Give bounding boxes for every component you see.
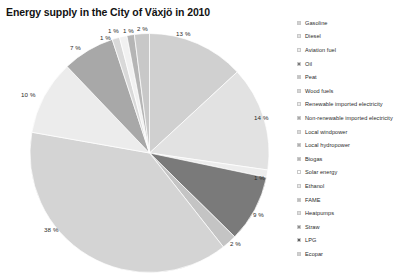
legend-swatch-icon bbox=[297, 198, 301, 202]
legend-item[interactable]: Gasoline bbox=[297, 16, 416, 30]
legend-item-label: Diesel bbox=[305, 33, 321, 39]
chart-page: Energy supply in the City of Växjö in 20… bbox=[0, 0, 416, 277]
legend-item[interactable]: Aviation fuel bbox=[297, 43, 416, 57]
legend-item-label: Gasoline bbox=[305, 20, 327, 26]
legend-swatch-icon bbox=[297, 238, 301, 242]
pie-percent-label: 14 % bbox=[254, 114, 269, 121]
pie-percent-label: 1 % bbox=[108, 27, 119, 34]
pie-percent-label: 9 % bbox=[253, 211, 264, 218]
legend-swatch-icon bbox=[297, 34, 301, 38]
pie-svg bbox=[27, 33, 272, 273]
legend-item[interactable]: Biogas bbox=[297, 152, 416, 166]
legend-swatch-icon bbox=[297, 21, 301, 25]
pie-percent-label: 10 % bbox=[21, 91, 36, 98]
legend-item-label: Oil bbox=[305, 61, 312, 67]
legend-item[interactable]: Solar energy bbox=[297, 166, 416, 180]
legend-item-label: Renewable imported electricity bbox=[305, 101, 383, 107]
legend-item-label: Solar energy bbox=[305, 169, 337, 175]
legend-item-label: Straw bbox=[305, 224, 320, 230]
pie-percent-label: 13 % bbox=[176, 30, 191, 37]
legend-swatch-icon bbox=[297, 89, 301, 93]
legend-swatch-icon bbox=[297, 116, 301, 120]
legend-item[interactable]: Renewable imported electricity bbox=[297, 98, 416, 112]
legend-item-label: Wood fuels bbox=[305, 88, 333, 94]
legend-item-label: Non-renewable imported electricity bbox=[305, 115, 393, 121]
pie-percent-label: 1 % bbox=[254, 174, 265, 181]
pie-percent-label: 38 % bbox=[44, 226, 59, 233]
legend-swatch-icon bbox=[297, 184, 301, 188]
pie-percent-label: 2 % bbox=[137, 25, 148, 32]
legend-swatch-icon bbox=[297, 157, 301, 161]
legend-item[interactable]: Wood fuels bbox=[297, 84, 416, 98]
legend-item-label: Peat bbox=[305, 74, 317, 80]
pie-percent-label: 7 % bbox=[70, 44, 81, 51]
legend-swatch-icon bbox=[297, 225, 301, 229]
legend-swatch-icon bbox=[297, 75, 301, 79]
legend-item[interactable]: Ethanol bbox=[297, 179, 416, 193]
legend-item[interactable]: Diesel bbox=[297, 30, 416, 44]
legend-swatch-icon bbox=[297, 48, 301, 52]
pie-slice-group bbox=[30, 34, 269, 273]
legend-item-label: LPG bbox=[305, 237, 316, 243]
legend-swatch-icon bbox=[297, 170, 301, 174]
legend-item[interactable]: Heatpumps bbox=[297, 206, 416, 220]
legend-item-label: Ethanol bbox=[305, 183, 324, 189]
legend-swatch-icon bbox=[297, 102, 301, 106]
legend-item-label: Local windpower bbox=[305, 129, 347, 135]
pie-percent-label: 1 % bbox=[123, 27, 134, 34]
pie-percent-label: 2 % bbox=[230, 240, 241, 247]
chart-title: Energy supply in the City of Växjö in 20… bbox=[6, 6, 210, 18]
legend-item-label: Biogas bbox=[305, 156, 322, 162]
chart-legend: GasolineDieselAviation fuelOilPeatWood f… bbox=[297, 16, 416, 261]
legend-item-label: Local hydropower bbox=[305, 142, 350, 148]
legend-item[interactable]: Local windpower bbox=[297, 125, 416, 139]
legend-item-label: Aviation fuel bbox=[305, 47, 336, 53]
legend-item-label: FAME bbox=[305, 197, 320, 203]
pie-percent-label: 1 % bbox=[100, 34, 111, 41]
legend-item-label: Ecopar bbox=[305, 251, 323, 257]
legend-item[interactable]: Peat bbox=[297, 70, 416, 84]
legend-item[interactable]: Oil bbox=[297, 57, 416, 71]
legend-item[interactable]: Straw bbox=[297, 220, 416, 234]
legend-swatch-icon bbox=[297, 143, 301, 147]
legend-swatch-icon bbox=[297, 130, 301, 134]
legend-swatch-icon bbox=[297, 62, 301, 66]
legend-item[interactable]: Ecopar bbox=[297, 247, 416, 261]
legend-item[interactable]: FAME bbox=[297, 193, 416, 207]
legend-item-label: Heatpumps bbox=[305, 210, 334, 216]
legend-item[interactable]: Non-renewable imported electricity bbox=[297, 111, 416, 125]
legend-swatch-icon bbox=[297, 211, 301, 215]
legend-item[interactable]: Local hydropower bbox=[297, 138, 416, 152]
legend-item[interactable]: LPG bbox=[297, 234, 416, 248]
pie-chart bbox=[27, 33, 272, 273]
legend-swatch-icon bbox=[297, 252, 301, 256]
